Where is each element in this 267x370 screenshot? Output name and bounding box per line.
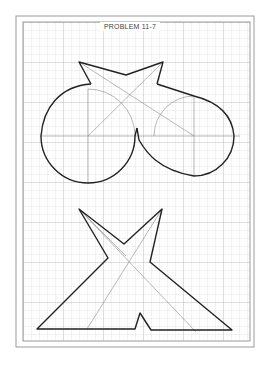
drawing-canvas	[0, 0, 267, 370]
problem-title: PROBLEM 11-7	[100, 22, 160, 31]
drawing-sheet: PROBLEM 11-7	[0, 0, 267, 370]
